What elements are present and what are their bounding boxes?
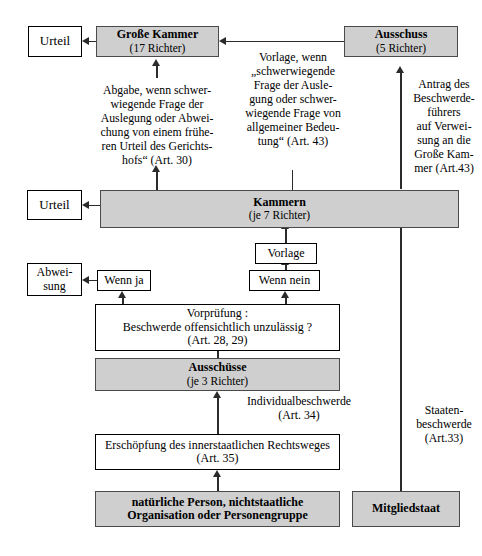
abweisung-line2: sung — [43, 280, 66, 293]
node-grosse-kammer[interactable]: Große Kammer (17 Richter) — [96, 26, 219, 57]
urteil-mid-label: Urteil — [39, 198, 69, 213]
vorpruefung-line3: (Art. 28, 29) — [188, 334, 248, 347]
arrowhead-into-ausschuss-bottom — [396, 66, 404, 73]
edge-ausschuss-to-grosse-kammer — [226, 41, 344, 42]
arrowhead-into-abweisung — [82, 276, 89, 284]
kammern-subtitle: (je 7 Richter) — [249, 209, 310, 222]
node-wenn-ja[interactable]: Wenn ja — [97, 270, 151, 291]
ausschuss-subtitle: (5 Richter) — [376, 42, 426, 55]
vorpruefung-line1: Vorprüfung : — [187, 307, 248, 320]
edge-label-vorlage-grosse-kammer: Vorlage, wenn „schwerwiegende Frage der … — [232, 50, 354, 148]
urteil-top-label: Urteil — [40, 34, 70, 49]
ausschuss-title: Ausschuss — [375, 28, 428, 41]
edge-kammern-to-grosse-kammer-upper — [156, 66, 158, 78]
arrowhead-into-grosse-kammer-right — [219, 37, 226, 45]
node-urteil-mid[interactable]: Urteil — [27, 190, 82, 220]
edge-wennja-to-abweisung — [89, 280, 97, 281]
node-abweisung[interactable]: Abwei- sung — [27, 263, 82, 296]
edge-label-staatenbeschwerde: Staaten- beschwerde (Art.33) — [406, 403, 482, 445]
vorlage-label: Vorlage — [267, 247, 304, 260]
edge-mitgliedstaat-to-kammern — [400, 228, 402, 491]
person-line2: Organisation oder Personengruppe — [127, 509, 307, 522]
erschoepfung-line2: (Art. 35) — [197, 452, 239, 465]
edge-vorpruefung-to-wennja — [122, 297, 124, 304]
wenn-nein-label: Wenn nein — [259, 274, 310, 287]
vorpruefung-line2: Beschwerde offensichtlich unzulässig ? — [123, 321, 312, 334]
edge-kammern-to-ausschuss — [400, 73, 402, 189]
node-urteil-top[interactable]: Urteil — [28, 26, 82, 57]
ausschuesse-subtitle: (je 3 Richter) — [187, 375, 248, 388]
edge-ausschuesse-to-vorpruefung — [217, 351, 219, 358]
edge-erschoepfung-to-ausschuesse — [217, 398, 219, 434]
arrowhead-into-grosse-kammer-bottom — [152, 59, 160, 66]
node-erschoepfung[interactable]: Erschöpfung des innerstaatlichen Rechtsw… — [95, 434, 340, 470]
erschoepfung-line1: Erschöpfung des innerstaatlichen Rechtsw… — [105, 439, 330, 452]
arrowhead-into-wennja — [118, 291, 126, 298]
abweisung-line1: Abwei- — [37, 266, 73, 279]
node-vorlage[interactable]: Vorlage — [255, 243, 317, 264]
node-wenn-nein[interactable]: Wenn nein — [249, 270, 320, 291]
arrowhead-into-erschoepfung — [213, 470, 221, 477]
edge-kammern-to-urteil-mid — [89, 205, 100, 206]
arrowhead-into-urteil-top — [82, 37, 89, 45]
edge-label-abgabe: Abgabe, wenn schwer- wiegende Frage der … — [78, 83, 236, 167]
grosse-kammer-title: Große Kammer — [117, 28, 198, 41]
node-ausschuss[interactable]: Ausschuss (5 Richter) — [344, 26, 458, 57]
node-vorpruefung[interactable]: Vorprüfung : Beschwerde offensichtlich u… — [95, 304, 340, 351]
edge-person-to-erschoepfung — [217, 477, 219, 491]
arrowhead-individualbeschwerde — [213, 391, 221, 398]
edge-label-antrag: Antrag des Beschwerde- führers auf Verwe… — [406, 77, 482, 175]
edge-vorpruefung-to-wennnein — [285, 297, 287, 304]
grosse-kammer-subtitle: (17 Richter) — [130, 42, 186, 55]
flowchart-canvas: Urteil Große Kammer (17 Richter) Ausschu… — [0, 0, 482, 556]
kammern-title: Kammern — [253, 196, 306, 209]
arrowhead-into-wennnein — [281, 291, 289, 298]
node-mitgliedstaat[interactable]: Mitgliedstaat — [352, 491, 460, 527]
mitgliedstaat-label: Mitgliedstaat — [372, 502, 440, 515]
node-ausschuesse[interactable]: Ausschüsse (je 3 Richter) — [95, 358, 340, 391]
edge-vorlage-to-kammern — [285, 229, 287, 243]
wenn-ja-label: Wenn ja — [104, 274, 143, 287]
ausschuesse-title: Ausschüsse — [188, 361, 246, 374]
edge-label-individualbeschwerde: Individualbeschwerde (Art. 34) — [226, 394, 372, 422]
edge-vorlage-grosse-kammer-lower — [292, 170, 293, 190]
node-person[interactable]: natürliche Person, nichtstaatliche Organ… — [95, 491, 340, 527]
arrowhead-into-urteil-mid — [82, 201, 89, 209]
edge-kammern-to-grosse-kammer-lower — [156, 172, 158, 190]
node-kammern[interactable]: Kammern (je 7 Richter) — [100, 190, 459, 228]
person-line1: natürliche Person, nichtstaatliche — [132, 496, 304, 509]
